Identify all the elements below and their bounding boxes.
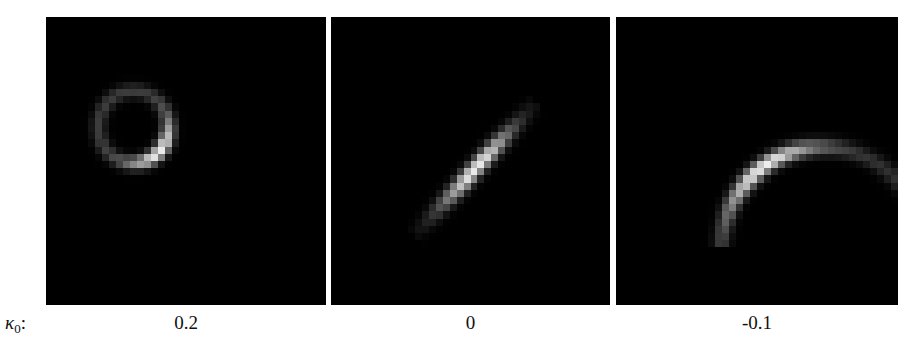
panel-label-0: 0.2 bbox=[46, 311, 326, 335]
image-panel-kappa-0 bbox=[331, 17, 610, 305]
row-label-kappa0: κ0: bbox=[5, 311, 26, 341]
image-panel-kappa-minus-0.1 bbox=[616, 17, 898, 305]
image-panel-kappa-0.2 bbox=[46, 17, 326, 305]
panel-label-1: 0 bbox=[331, 311, 610, 335]
panel-label-2: -0.1 bbox=[616, 311, 898, 335]
